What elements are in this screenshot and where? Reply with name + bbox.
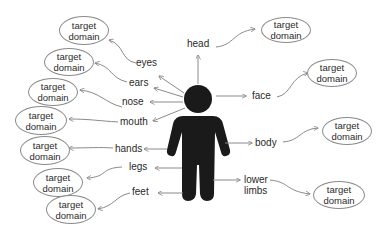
target-domain-nose: target domain bbox=[28, 78, 78, 106]
label-body: body bbox=[255, 137, 277, 148]
curve-mouth bbox=[69, 119, 118, 122]
target-domain-legs: target domain bbox=[33, 168, 83, 197]
target-domain-lower-limbs: target domain bbox=[313, 181, 365, 209]
curve-body bbox=[283, 128, 318, 142]
curve-lower-limbs bbox=[270, 180, 310, 194]
target-line1: target bbox=[327, 184, 351, 195]
curve-nose bbox=[80, 90, 122, 107]
label-eyes: eyes bbox=[136, 57, 157, 68]
target-line2: domain bbox=[316, 73, 347, 84]
target-domain-mouth: target domain bbox=[15, 106, 67, 135]
target-domain-head: target domain bbox=[261, 17, 311, 43]
curve-face bbox=[277, 73, 308, 97]
label-ears: ears bbox=[129, 77, 148, 88]
target-line1: target bbox=[33, 140, 57, 151]
label-lower-limbs-line2: limbs bbox=[244, 185, 268, 196]
target-line2: domain bbox=[25, 121, 56, 132]
target-domain-face: target domain bbox=[307, 59, 357, 87]
target-domain-hands: target domain bbox=[20, 136, 70, 165]
target-line2: domain bbox=[55, 210, 86, 221]
target-domain-ears: target domain bbox=[44, 48, 94, 76]
target-domain-feet: target domain bbox=[46, 195, 96, 224]
curve-head bbox=[216, 29, 255, 47]
label-feet: feet bbox=[132, 186, 149, 197]
label-head: head bbox=[187, 38, 209, 49]
target-line1: target bbox=[57, 51, 81, 62]
label-lower-limbs-line1: lower bbox=[244, 174, 268, 185]
target-line1: target bbox=[274, 19, 298, 30]
target-line1: target bbox=[59, 199, 83, 210]
label-hands: hands bbox=[115, 143, 142, 154]
target-line1: target bbox=[335, 120, 359, 131]
target-line2: domain bbox=[68, 31, 99, 42]
target-domain-body: target domain bbox=[322, 117, 372, 145]
target-line1: target bbox=[46, 172, 70, 183]
label-mouth: mouth bbox=[120, 116, 148, 127]
target-line2: domain bbox=[270, 30, 301, 41]
target-line2: domain bbox=[37, 92, 68, 103]
label-nose: nose bbox=[122, 96, 144, 107]
target-line2: domain bbox=[29, 151, 60, 162]
target-line1: target bbox=[41, 81, 65, 92]
target-line2: domain bbox=[42, 183, 73, 194]
curve-legs bbox=[87, 167, 122, 178]
curve-ears bbox=[95, 63, 127, 82]
curve-feet bbox=[98, 193, 130, 209]
label-legs: legs bbox=[129, 161, 147, 172]
target-domain-eyes: target domain bbox=[59, 16, 109, 45]
target-line2: domain bbox=[331, 131, 362, 142]
target-line2: domain bbox=[323, 195, 354, 206]
target-line1: target bbox=[320, 62, 344, 73]
source-to-target-domain-diagram: eyes ears nose mouth hands legs feet hea… bbox=[0, 0, 387, 230]
target-line2: domain bbox=[53, 62, 84, 73]
label-face: face bbox=[252, 90, 271, 101]
target-line1: target bbox=[29, 110, 53, 121]
curve-eyes bbox=[109, 40, 136, 63]
label-lower-limbs: lower limbs bbox=[244, 174, 268, 196]
target-line1: target bbox=[72, 20, 96, 31]
